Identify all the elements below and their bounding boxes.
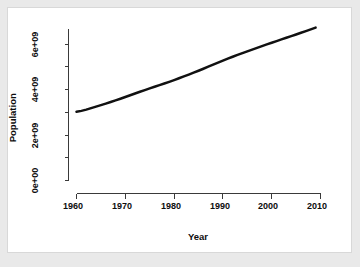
population-line (77, 28, 316, 112)
y-axis-title: Population (8, 73, 18, 163)
xtick-label-1970: 1970 (112, 202, 132, 211)
ytick-label-6e09: 6e+09 (31, 20, 40, 70)
y-axis (65, 29, 69, 181)
x-axis (77, 194, 321, 199)
xtick-label-1990: 1990 (210, 202, 230, 211)
plot-vector-layer (0, 0, 360, 267)
xtick-label-1960: 1960 (63, 202, 83, 211)
xtick-label-2010: 2010 (307, 202, 327, 211)
figure-background: 1960 1970 1980 1990 2000 2010 0e+00 2e+0… (0, 0, 360, 267)
ytick-label-4e09: 4e+09 (31, 65, 40, 115)
ytick-label-0: 0e+00 (31, 156, 40, 206)
xtick-label-1980: 1980 (161, 202, 181, 211)
ytick-label-2e09: 2e+09 (31, 111, 40, 161)
xtick-label-2000: 2000 (258, 202, 278, 211)
x-axis-title: Year (168, 232, 228, 242)
